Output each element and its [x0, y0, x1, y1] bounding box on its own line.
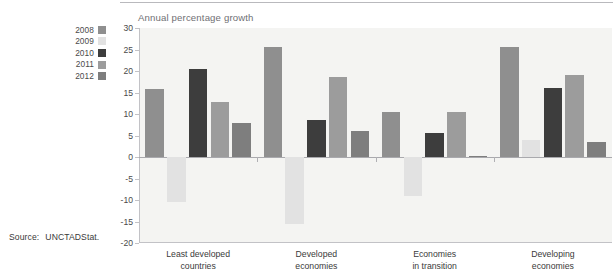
y-axis-tick [135, 93, 139, 94]
bar-2010-group-2 [307, 120, 326, 157]
bar-2011-group-1 [211, 102, 230, 157]
source-note: Source:UNCTADStat. [9, 232, 99, 242]
bar-2009-group-1 [167, 157, 186, 202]
y-axis-tick-label: 25 [123, 45, 133, 54]
bar-2008-group-3 [382, 112, 401, 157]
bar-2011-group-2 [329, 77, 348, 157]
chart-title: Annual percentage growth [138, 12, 254, 23]
legend-item-2010: 2010 [54, 47, 106, 59]
y-axis-tick-label: 5 [128, 131, 133, 140]
legend-color-swatch [98, 61, 106, 69]
y-axis-tick-label: -15 [121, 217, 133, 226]
bar-2010-group-4 [544, 88, 563, 157]
x-axis-group-label: Developed economies [257, 249, 375, 272]
y-axis-tick-label: 15 [123, 88, 133, 97]
y-axis-tick-label: 0 [128, 153, 133, 162]
legend-item-label: 2011 [76, 60, 94, 68]
top-divider-rule [120, 2, 613, 3]
bar-2012-group-3 [469, 156, 488, 157]
group-separator-tick [494, 157, 495, 162]
plot-area: 302520151050-5-10-15-20Least developed c… [139, 28, 612, 243]
bar-2011-group-3 [447, 112, 466, 157]
y-axis-line [139, 28, 140, 243]
bar-2012-group-2 [351, 131, 370, 157]
legend-color-swatch [98, 72, 106, 80]
bar-2012-group-1 [232, 123, 251, 157]
legend-item-2012: 2012 [54, 70, 106, 82]
y-axis-tick-label: 10 [123, 110, 133, 119]
bar-2009-group-2 [285, 157, 304, 224]
bar-2008-group-2 [264, 47, 283, 157]
legend-item-label: 2008 [75, 26, 94, 34]
y-axis-tick-label: 30 [123, 24, 133, 33]
legend-color-swatch [98, 37, 106, 45]
source-value: UNCTADStat. [45, 232, 99, 242]
bar-2008-group-4 [500, 47, 519, 157]
bar-2010-group-1 [189, 69, 208, 157]
y-axis-tick [135, 50, 139, 51]
source-label: Source: [9, 232, 39, 242]
y-axis-tick [135, 157, 139, 158]
y-axis-tick-label: -20 [121, 239, 133, 248]
bar-2011-group-4 [565, 75, 584, 157]
legend-item-2009: 2009 [54, 36, 106, 48]
legend-item-label: 2009 [75, 37, 94, 45]
legend-color-swatch [98, 26, 106, 34]
y-axis-tick [135, 243, 139, 244]
group-separator-tick [257, 157, 258, 162]
legend-item-label: 2012 [75, 72, 94, 80]
y-axis-tick-label: -5 [125, 174, 133, 183]
bar-2012-group-4 [587, 142, 606, 157]
y-axis-tick [135, 28, 139, 29]
bar-2009-group-4 [522, 140, 541, 157]
chart-legend: 20082009201020112012 [54, 24, 106, 82]
y-axis-tick [135, 222, 139, 223]
group-separator-tick [376, 157, 377, 162]
legend-item-2008: 2008 [54, 24, 106, 36]
bar-2010-group-3 [425, 133, 444, 157]
x-axis-group-label: Developing economies [494, 249, 612, 272]
legend-color-swatch [98, 49, 106, 57]
bar-2008-group-1 [145, 89, 164, 157]
legend-item-label: 2010 [75, 49, 94, 57]
y-axis-tick [135, 136, 139, 137]
y-axis-tick-label: 20 [123, 67, 133, 76]
x-axis-line [139, 242, 612, 243]
y-axis-tick [135, 179, 139, 180]
chart-container: Annual percentage growth 302520151050-5-… [120, 6, 613, 279]
y-axis-tick [135, 114, 139, 115]
x-axis-group-label: Economies in transition [376, 249, 494, 272]
bar-2009-group-3 [404, 157, 423, 196]
x-axis-group-label: Least developed countries [139, 249, 257, 272]
legend-item-2011: 2011 [54, 59, 106, 71]
y-axis-tick [135, 200, 139, 201]
y-axis-tick-label: -10 [121, 196, 133, 205]
y-axis-tick [135, 71, 139, 72]
